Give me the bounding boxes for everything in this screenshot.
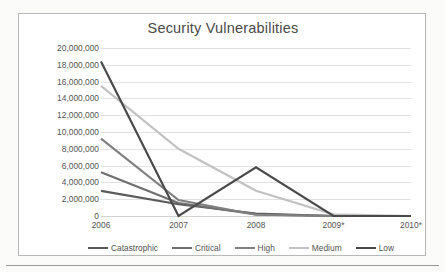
- x-axis-tick-label: 2006: [92, 220, 111, 230]
- x-axis-tick-labels: 2006200720082009*2010*: [101, 220, 411, 234]
- x-axis-tick-label: 2009*: [323, 220, 345, 230]
- x-axis-tick-label: 2008: [247, 220, 266, 230]
- plot-area: [101, 48, 411, 216]
- legend-item-catastrophic[interactable]: Catastrophic: [88, 243, 158, 253]
- legend-label: Critical: [195, 243, 221, 253]
- legend-item-critical[interactable]: Critical: [172, 243, 221, 253]
- legend-swatch-icon: [88, 247, 108, 249]
- y-axis-tick-label: 20,000,000: [37, 44, 99, 52]
- y-axis-tick-label: 0: [37, 212, 99, 220]
- legend-swatch-icon: [289, 247, 309, 249]
- y-axis-tick-label: 4,000,000: [37, 178, 99, 186]
- x-axis-tick-label: 2007: [169, 220, 188, 230]
- legend-swatch-icon: [235, 247, 255, 249]
- y-axis-tick-label: 12,000,000: [37, 111, 99, 119]
- series-line-catastrophic: [101, 191, 411, 216]
- y-axis-tick-label: 14,000,000: [37, 94, 99, 102]
- y-axis-tick-label: 8,000,000: [37, 145, 99, 153]
- screenshot-page: Security Vulnerabilities 20,000,00018,00…: [0, 0, 445, 272]
- legend-label: Medium: [312, 243, 342, 253]
- legend-swatch-icon: [356, 247, 376, 249]
- y-axis-tick-label: 18,000,000: [37, 61, 99, 69]
- legend-item-high[interactable]: High: [235, 243, 275, 253]
- horizontal-rule: [6, 265, 439, 266]
- chart-container: Security Vulnerabilities 20,000,00018,00…: [18, 13, 426, 256]
- y-axis-tick-labels: 20,000,00018,000,00016,000,00014,000,000…: [37, 48, 99, 216]
- legend-label: High: [258, 243, 275, 253]
- y-axis-tick-label: 6,000,000: [37, 162, 99, 170]
- series-line-high: [101, 139, 411, 216]
- legend-item-medium[interactable]: Medium: [289, 243, 342, 253]
- series-line-low: [101, 61, 411, 216]
- series-line-medium: [101, 86, 411, 216]
- chart-legend: CatastrophicCriticalHighMediumLow: [41, 240, 441, 256]
- legend-label: Low: [379, 243, 394, 253]
- series-lines: [101, 48, 411, 216]
- x-axis-tick-label: 2010*: [400, 220, 422, 230]
- chart-title: Security Vulnerabilities: [19, 20, 427, 36]
- y-axis-tick-label: 10,000,000: [37, 128, 99, 136]
- series-line-critical: [101, 172, 411, 216]
- legend-swatch-icon: [172, 247, 192, 249]
- y-axis-tick-label: 16,000,000: [37, 78, 99, 86]
- legend-item-low[interactable]: Low: [356, 243, 394, 253]
- y-axis-tick-label: 2,000,000: [37, 195, 99, 203]
- legend-label: Catastrophic: [111, 243, 158, 253]
